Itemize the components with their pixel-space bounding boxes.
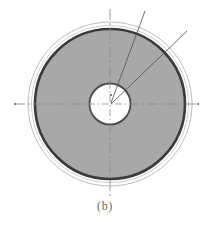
left-axis-endpoint-dot — [14, 103, 16, 105]
cross-section-drawing — [0, 0, 210, 227]
inner-bore-circle — [90, 84, 131, 125]
center-point-dot — [110, 94, 112, 96]
figure-container: (b) — [0, 0, 210, 227]
right-axis-endpoint-dot — [197, 103, 199, 105]
figure-caption: (b) — [0, 199, 210, 213]
